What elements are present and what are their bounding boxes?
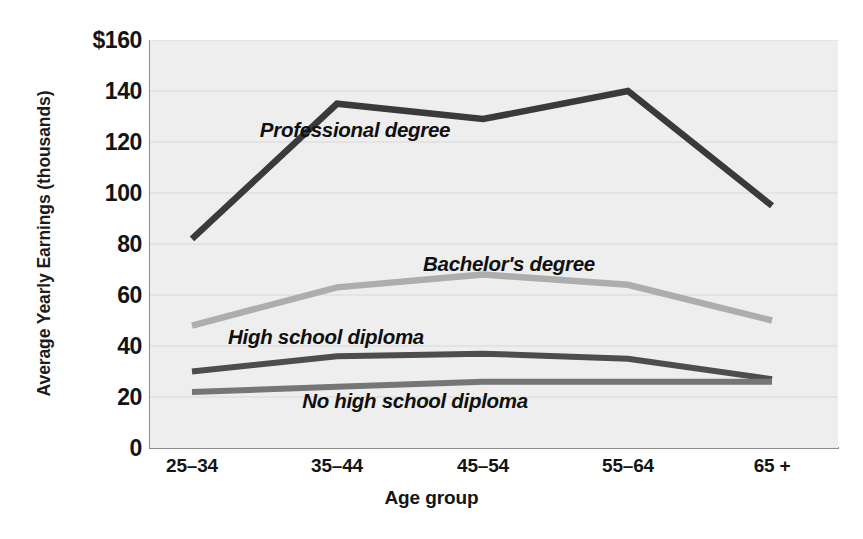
y-tick-label: 0 [48,437,142,460]
series-label: Bachelor's degree [423,252,595,276]
series-label: High school diploma [228,325,424,349]
x-tick-label: 55–64 [602,455,654,477]
x-axis-title: Age group [0,487,863,509]
x-tick-label: 35–44 [311,455,363,477]
series-line [192,354,772,380]
y-tick-label: $160 [48,29,142,52]
series-label: Professional degree [260,118,450,142]
x-tick-label: 25–34 [166,455,218,477]
y-tick-label: 120 [48,131,142,154]
y-tick-label: 140 [48,80,142,103]
series-lines [150,40,838,448]
series-line [192,91,772,239]
chart-figure: Average Yearly Earnings (thousands) 0204… [0,0,863,539]
y-tick-label: 20 [48,386,142,409]
x-tick-label: 45–54 [457,455,509,477]
y-tick-label: 80 [48,233,142,256]
series-label: No high school diploma [302,389,528,413]
plot-area [150,40,838,448]
series-line [192,275,772,326]
x-tick-label: 65 + [754,455,791,477]
y-tick-label: 60 [48,284,142,307]
y-tick-label: 100 [48,182,142,205]
y-tick-label: 40 [48,335,142,358]
y-axis-tick-labels: 020406080100120140$160 [48,0,142,539]
